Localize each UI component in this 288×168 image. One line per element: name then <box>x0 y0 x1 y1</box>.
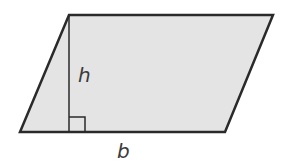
parallelogram-shape <box>20 15 273 132</box>
base-label: b <box>117 139 130 163</box>
height-label: h <box>78 63 91 87</box>
parallelogram-diagram: h b <box>0 0 288 168</box>
